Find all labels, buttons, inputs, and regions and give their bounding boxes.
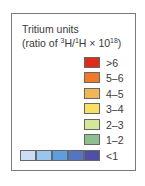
legend-swatch — [36, 150, 52, 161]
legend-swatch — [52, 150, 68, 161]
legend-label: 3–4 — [106, 103, 124, 115]
legend-swatch — [20, 150, 36, 161]
legend-swatch — [68, 150, 84, 161]
legend-swatch — [84, 88, 100, 99]
legend-swatch — [84, 103, 100, 114]
legend-swatch — [84, 57, 100, 68]
legend-title-line2: (ratio of 3H/1H × 1018) — [22, 36, 121, 50]
legend-label: 4–5 — [106, 88, 124, 100]
legend-swatch — [84, 119, 100, 130]
legend-label: <1 — [106, 150, 118, 162]
legend-title: Tritium units (ratio of 3H/1H × 1018) — [22, 22, 121, 50]
legend-swatch — [84, 150, 100, 161]
legend-label: >6 — [106, 57, 118, 69]
legend-label: 2–3 — [106, 119, 124, 131]
legend-label: 1–2 — [106, 134, 124, 146]
legend-title-line1: Tritium units — [22, 22, 121, 36]
legend-swatch — [84, 72, 100, 83]
legend-label: 5–6 — [106, 72, 124, 84]
legend-swatch — [84, 134, 100, 145]
legend-box: Tritium units (ratio of 3H/1H × 1018) >6… — [11, 13, 136, 171]
